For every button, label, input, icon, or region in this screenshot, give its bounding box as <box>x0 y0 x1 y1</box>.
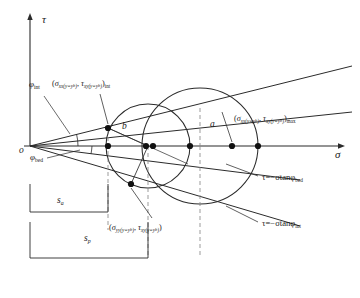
sigma-paren-yy: ) <box>132 227 134 233</box>
bedding-equation-subscript: bed <box>295 177 303 183</box>
phi-bed-leader <box>47 150 80 158</box>
marker-right-b <box>187 143 193 149</box>
bedding-equation-text: τ=−σtanφ <box>262 172 295 182</box>
internal-equation-text: τ=−σtanφ <box>262 218 295 228</box>
mohr-diagram-canvas: τ σ o φint φbed b a (σxx(y=yb), τxy(y=yb… <box>0 0 360 298</box>
stress-point-yy-label: (σyy(y=yb), τxy(y=yb)) <box>109 224 162 233</box>
s-p-subscript: p <box>88 238 91 244</box>
dimension-s-a-label: sa <box>57 196 64 207</box>
marker-center-b <box>143 143 149 149</box>
leader-to-yy-point <box>131 188 152 218</box>
tau-subscript-yy: xy(y=y <box>141 227 155 233</box>
tau-axis-arrowhead <box>27 13 32 20</box>
phi-bed-arc <box>91 146 92 154</box>
envelope-group-lower <box>30 146 300 226</box>
internal-equation-subscript: int <box>295 223 301 229</box>
circle-a-label: a <box>210 120 215 130</box>
diagram-vector-layer <box>0 0 360 298</box>
circle-b-label: b <box>122 122 127 132</box>
stress-point-int-suffix: int <box>105 83 110 89</box>
sigma-subscript-max: xx(y=y <box>241 118 255 124</box>
tau-paren-max: ) <box>282 118 284 124</box>
phi-int-subscript: int <box>34 84 40 90</box>
sigma-subscript-yy: yy(y=y <box>116 227 130 233</box>
tau-axis-label: τ <box>42 14 46 25</box>
marker-center-a <box>150 143 156 149</box>
tau-paren-int: ) <box>100 83 102 89</box>
bedding-envelope-line <box>30 112 352 146</box>
marker-int-tangency <box>105 125 111 131</box>
dimension-s-p-label: sp <box>84 234 91 245</box>
marker-left-sigma <box>105 143 111 149</box>
tau-paren-yy: ) <box>157 227 159 233</box>
bedding-envelope-equation: τ=−σtanφbed <box>262 173 303 183</box>
phi-bed-label: φbed <box>30 153 43 163</box>
tau-subscript-max: xy(y=y <box>266 118 280 124</box>
sigma-axis-label: σ <box>335 149 340 160</box>
phi-bed-subscript: bed <box>35 157 43 163</box>
leader-to-int-point <box>100 94 108 124</box>
sigma-paren-int: ) <box>75 83 77 89</box>
internal-friction-envelope-line-mirror <box>30 146 300 226</box>
leader-to-max-point <box>222 112 232 142</box>
origin-label: o <box>19 146 24 156</box>
stress-point-max-right-label: (σxx(y=yb), τxy(y=yb))max <box>234 115 295 124</box>
s-a-subscript: a <box>61 200 64 206</box>
phi-int-leader <box>44 96 70 134</box>
tau-subscript-int: xy(y=y <box>84 83 98 89</box>
bedding-envelope-line-mirror <box>30 146 300 180</box>
dimension-bracket-group <box>30 184 148 258</box>
marker-right-a <box>255 143 261 149</box>
sigma-paren-max: ) <box>257 118 259 124</box>
internal-envelope-equation: τ=−σtanφint <box>262 219 301 229</box>
stress-point-int-left-label: (σxx(y=yb), τxy(y=yb))int <box>52 80 110 89</box>
marker-lower-b <box>128 181 134 187</box>
internal-friction-envelope-line <box>30 66 352 146</box>
phi-int-arc <box>77 134 79 146</box>
envelope-group-upper <box>30 66 352 146</box>
phi-int-label: φint <box>29 80 40 90</box>
stress-point-max-suffix: max <box>287 118 296 124</box>
s-a-bracket <box>30 184 108 212</box>
sigma-subscript-int: xx(y=y <box>59 83 73 89</box>
stress-point-marker-group <box>105 125 261 187</box>
marker-max-right <box>229 143 235 149</box>
